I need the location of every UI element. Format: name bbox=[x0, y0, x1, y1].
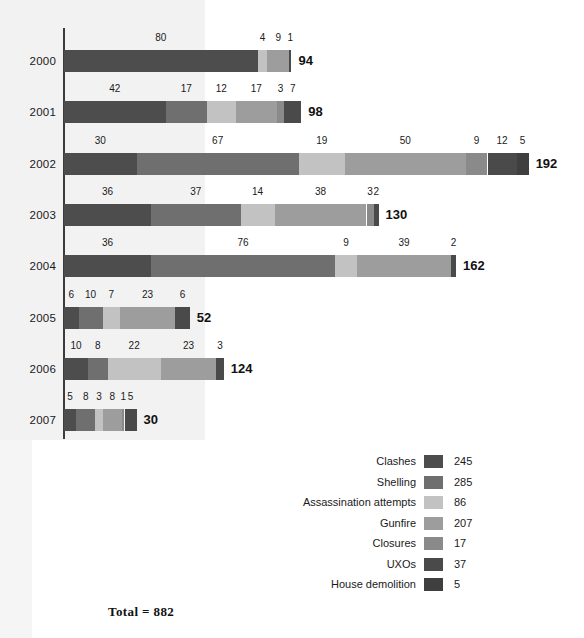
row-total-label: 192 bbox=[536, 156, 558, 171]
segment-value-label: 5 bbox=[520, 135, 526, 146]
legend-item-value: 17 bbox=[454, 537, 466, 549]
y-axis-tick-label: 2001 bbox=[0, 106, 56, 118]
segment-value-label: 9 bbox=[275, 32, 281, 43]
row-total-label: 52 bbox=[197, 310, 211, 325]
y-axis-tick-label: 2004 bbox=[0, 260, 56, 272]
segment-value-label: 10 bbox=[71, 340, 82, 351]
bar-segment bbox=[175, 307, 190, 329]
background-shading-band-lower bbox=[0, 440, 32, 638]
legend-color-swatch bbox=[424, 455, 443, 468]
bar-row: 2002306719509125192 bbox=[0, 131, 584, 181]
segment-value-label: 36 bbox=[102, 186, 113, 197]
legend-color-swatch bbox=[424, 517, 443, 530]
segment-value-label: 3 bbox=[96, 391, 102, 402]
legend-item-label: Shelling bbox=[377, 476, 416, 488]
segment-value-label: 5 bbox=[128, 391, 134, 402]
bar-segment bbox=[166, 101, 207, 123]
bar-row: 2005610723652 bbox=[0, 285, 584, 335]
segment-value-label: 9 bbox=[474, 135, 480, 146]
bar-segment bbox=[258, 50, 268, 72]
segment-value-label: 1 bbox=[121, 391, 127, 402]
segment-value-label: 4 bbox=[260, 32, 266, 43]
row-total-label: 94 bbox=[298, 53, 312, 68]
stacked-bar-chart: 2000804919420014217121737982002306719509… bbox=[0, 0, 584, 638]
segment-value-label: 76 bbox=[238, 237, 249, 248]
chart-legend: Clashes245Shelling285Assassination attem… bbox=[288, 452, 568, 596]
segment-value-label: 14 bbox=[252, 186, 263, 197]
segment-value-label: 67 bbox=[212, 135, 223, 146]
bar-segment bbox=[151, 255, 335, 277]
bar-segment bbox=[284, 101, 301, 123]
bar-segment bbox=[88, 358, 107, 380]
bar-segment bbox=[236, 101, 277, 123]
legend-color-swatch bbox=[424, 558, 443, 571]
segment-value-label: 7 bbox=[108, 289, 114, 300]
legend-item[interactable]: UXOs37 bbox=[288, 555, 568, 576]
y-axis-tick-label: 2000 bbox=[0, 55, 56, 67]
row-total-label: 162 bbox=[463, 258, 485, 273]
segment-value-label: 12 bbox=[496, 135, 507, 146]
bar-segment bbox=[108, 358, 161, 380]
legend-color-swatch bbox=[424, 476, 443, 489]
y-axis-tick-label: 2002 bbox=[0, 158, 56, 170]
legend-color-swatch bbox=[424, 537, 443, 550]
bar-segment bbox=[488, 153, 517, 175]
legend-item-value: 86 bbox=[454, 496, 466, 508]
segment-value-label: 3 bbox=[217, 340, 223, 351]
bar-segment bbox=[64, 204, 151, 226]
segment-value-label: 6 bbox=[68, 289, 74, 300]
legend-color-swatch bbox=[424, 578, 443, 591]
y-axis-tick-label: 2006 bbox=[0, 363, 56, 375]
bar-segment bbox=[151, 204, 241, 226]
bar-row: 20008049194 bbox=[0, 28, 584, 78]
segment-value-label: 39 bbox=[398, 237, 409, 248]
segment-value-label: 37 bbox=[190, 186, 201, 197]
legend-item-label: Assassination attempts bbox=[303, 496, 416, 508]
row-total-label: 98 bbox=[308, 104, 322, 119]
legend-item[interactable]: Assassination attempts86 bbox=[288, 493, 568, 514]
legend-item[interactable]: Closures17 bbox=[288, 534, 568, 555]
segment-value-label: 7 bbox=[290, 83, 296, 94]
legend-item-value: 285 bbox=[454, 476, 472, 488]
bar-segment bbox=[289, 50, 291, 72]
bar-segment bbox=[466, 153, 488, 175]
segment-value-label: 6 bbox=[180, 289, 186, 300]
legend-item[interactable]: Clashes245 bbox=[288, 452, 568, 473]
segment-value-label: 38 bbox=[315, 186, 326, 197]
bar-row: 200610822233124 bbox=[0, 336, 584, 386]
legend-item[interactable]: Gunfire207 bbox=[288, 514, 568, 535]
segment-value-label: 50 bbox=[400, 135, 411, 146]
bar-segment bbox=[241, 204, 275, 226]
row-total-label: 30 bbox=[144, 412, 158, 427]
bar-row: 200436769392162 bbox=[0, 233, 584, 283]
bar-segment bbox=[120, 307, 176, 329]
bar-segment bbox=[277, 101, 284, 123]
bar-segment bbox=[357, 255, 451, 277]
bar-segment bbox=[64, 50, 258, 72]
bar-segment bbox=[216, 358, 223, 380]
segment-value-label: 5 bbox=[67, 391, 73, 402]
bar-segment bbox=[125, 409, 137, 431]
legend-item-label: UXOs bbox=[387, 558, 416, 570]
legend-item-label: House demolition bbox=[331, 578, 416, 590]
segment-value-label: 3 bbox=[278, 83, 284, 94]
legend-item-label: Clashes bbox=[376, 455, 416, 467]
bar-segment bbox=[267, 50, 289, 72]
bar-segment bbox=[79, 307, 103, 329]
bar-segment bbox=[103, 307, 120, 329]
legend-item[interactable]: Shelling285 bbox=[288, 473, 568, 494]
bar-segment bbox=[374, 204, 379, 226]
bar-segment bbox=[299, 153, 345, 175]
bar-segment bbox=[64, 358, 88, 380]
segment-value-label: 3 bbox=[367, 186, 373, 197]
segment-value-label: 12 bbox=[216, 83, 227, 94]
bar-segment bbox=[275, 204, 367, 226]
legend-item[interactable]: House demolition5 bbox=[288, 575, 568, 596]
segment-value-label: 8 bbox=[110, 391, 116, 402]
legend-item-label: Gunfire bbox=[380, 517, 416, 529]
legend-item-value: 207 bbox=[454, 517, 472, 529]
segment-value-label: 10 bbox=[85, 289, 96, 300]
bar-segment bbox=[103, 409, 122, 431]
segment-value-label: 22 bbox=[129, 340, 140, 351]
segment-value-label: 36 bbox=[102, 237, 113, 248]
